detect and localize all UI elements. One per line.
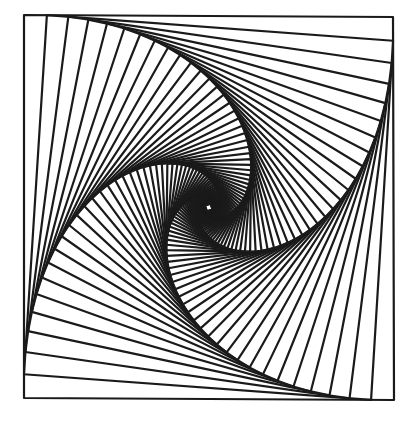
square-outline	[205, 204, 212, 212]
square-outline	[36, 29, 380, 387]
square-outline	[77, 71, 341, 345]
square-outline	[62, 55, 356, 360]
spiral-squares-drawing	[0, 0, 413, 423]
square-outline	[48, 41, 369, 375]
